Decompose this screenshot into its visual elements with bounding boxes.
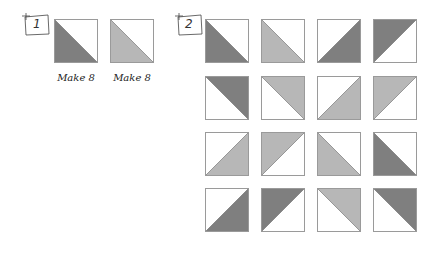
half-square-triangle-icon bbox=[261, 188, 305, 232]
half-square-triangle-icon bbox=[261, 19, 305, 63]
step-2-unit-r3-c3 bbox=[317, 132, 361, 176]
half-square-triangle-icon bbox=[373, 132, 417, 176]
half-square-triangle-icon bbox=[205, 132, 249, 176]
step-2-unit-r4-c2 bbox=[261, 188, 305, 232]
step-2-unit-r2-c3 bbox=[317, 76, 361, 120]
step-2-unit-r3-c1 bbox=[205, 132, 249, 176]
step-1-number: 1 bbox=[33, 17, 41, 31]
half-square-triangle-icon bbox=[205, 19, 249, 63]
step-1-unit-1 bbox=[54, 19, 98, 63]
step-2-unit-r1-c4 bbox=[373, 19, 417, 63]
step-2-unit-r1-c3 bbox=[317, 19, 361, 63]
half-square-triangle-icon bbox=[317, 188, 361, 232]
make-count-label: Make 8 bbox=[104, 72, 160, 83]
step-2-unit-r4-c4 bbox=[373, 188, 417, 232]
step-2-unit-r3-c4 bbox=[373, 132, 417, 176]
step-2-marker: 2 bbox=[175, 12, 205, 38]
half-square-triangle-icon bbox=[317, 19, 361, 63]
step-2-unit-r4-c1 bbox=[205, 188, 249, 232]
half-square-triangle-icon bbox=[261, 76, 305, 120]
step-2-unit-r4-c3 bbox=[317, 188, 361, 232]
half-square-triangle-icon bbox=[373, 188, 417, 232]
step-2-unit-r1-c2 bbox=[261, 19, 305, 63]
step-2-unit-r3-c2 bbox=[261, 132, 305, 176]
step-2-unit-r2-c4 bbox=[373, 76, 417, 120]
half-square-triangle-icon bbox=[373, 19, 417, 63]
make-count-label: Make 8 bbox=[48, 72, 104, 83]
step-2-unit-r1-c1 bbox=[205, 19, 249, 63]
step-1-unit-2 bbox=[110, 19, 154, 63]
half-square-triangle-icon bbox=[205, 188, 249, 232]
half-square-triangle-icon bbox=[54, 19, 98, 63]
step-2-unit-r2-c2 bbox=[261, 76, 305, 120]
half-square-triangle-icon bbox=[317, 132, 361, 176]
half-square-triangle-icon bbox=[110, 19, 154, 63]
half-square-triangle-icon bbox=[261, 132, 305, 176]
step-1-marker: 1 bbox=[22, 12, 52, 38]
half-square-triangle-icon bbox=[205, 76, 249, 120]
step-2-number: 2 bbox=[185, 17, 193, 31]
half-square-triangle-icon bbox=[373, 76, 417, 120]
step-2-unit-r2-c1 bbox=[205, 76, 249, 120]
half-square-triangle-icon bbox=[317, 76, 361, 120]
